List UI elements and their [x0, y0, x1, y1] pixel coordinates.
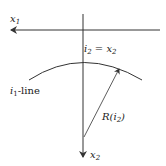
peak-label: i2 = x2 — [84, 43, 117, 56]
radius-label: R(i2) — [101, 111, 125, 124]
x1-label: x1 — [10, 13, 20, 26]
i1-line-arc — [29, 63, 142, 81]
i1-line-label: i1-line — [10, 85, 40, 98]
x2-label: x2 — [90, 149, 101, 162]
diagram-canvas: x1 x2 i2 = x2 i1-line R(i2) — [0, 0, 166, 166]
radius-arrow — [84, 69, 119, 137]
